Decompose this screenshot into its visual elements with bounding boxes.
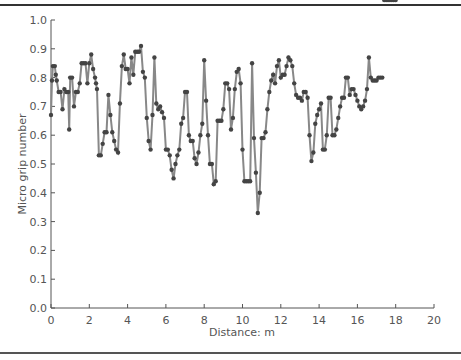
data-point bbox=[106, 93, 110, 97]
data-point bbox=[87, 61, 91, 65]
data-point bbox=[221, 107, 225, 111]
data-point bbox=[99, 153, 103, 157]
data-point bbox=[93, 75, 97, 79]
data-point bbox=[231, 116, 235, 120]
data-point bbox=[169, 168, 173, 172]
data-point bbox=[91, 67, 95, 71]
data-point bbox=[139, 44, 143, 48]
data-point bbox=[292, 81, 296, 85]
data-point bbox=[154, 101, 158, 105]
data-point bbox=[150, 113, 154, 117]
data-point bbox=[284, 64, 288, 68]
data-point bbox=[66, 90, 70, 94]
data-point bbox=[267, 90, 271, 94]
data-point bbox=[313, 121, 317, 125]
data-point bbox=[273, 81, 277, 85]
y-tick-label: 0.9 bbox=[30, 43, 48, 56]
data-point bbox=[336, 116, 340, 120]
data-point bbox=[288, 58, 292, 62]
data-point bbox=[353, 93, 357, 97]
data-point bbox=[229, 127, 233, 131]
data-point bbox=[196, 150, 200, 154]
x-tick-label: 16 bbox=[350, 314, 364, 327]
data-point bbox=[227, 87, 231, 91]
data-point bbox=[181, 116, 185, 120]
y-axis-label: Micro grip number bbox=[16, 113, 29, 215]
data-point bbox=[275, 64, 279, 68]
x-tick-label: 8 bbox=[201, 314, 208, 327]
data-point bbox=[137, 49, 141, 53]
data-point bbox=[263, 130, 267, 134]
data-point bbox=[185, 90, 189, 94]
data-point bbox=[116, 150, 120, 154]
y-tick-label: 0.3 bbox=[30, 216, 48, 229]
data-point bbox=[338, 104, 342, 108]
data-point bbox=[171, 176, 175, 180]
data-point bbox=[236, 67, 240, 71]
data-point bbox=[76, 90, 80, 94]
data-point bbox=[200, 121, 204, 125]
data-point bbox=[348, 93, 352, 97]
data-point bbox=[282, 73, 286, 77]
data-point bbox=[317, 107, 321, 111]
y-tick-label: 0.5 bbox=[30, 158, 48, 171]
x-axis: 02468101214161820 bbox=[48, 304, 442, 327]
data-point bbox=[361, 104, 365, 108]
data-point bbox=[141, 70, 145, 74]
data-point bbox=[380, 75, 384, 79]
data-point bbox=[240, 147, 244, 151]
data-point bbox=[233, 87, 237, 91]
data-point bbox=[319, 101, 323, 105]
data-point bbox=[125, 67, 129, 71]
data-point bbox=[160, 110, 164, 114]
data-point bbox=[67, 127, 71, 131]
data-point bbox=[300, 98, 304, 102]
data-point bbox=[101, 142, 105, 146]
y-tick-label: 0.2 bbox=[30, 244, 48, 257]
data-point bbox=[50, 78, 54, 82]
data-point bbox=[315, 113, 319, 117]
data-point bbox=[129, 55, 133, 59]
data-point bbox=[290, 64, 294, 68]
data-point bbox=[311, 150, 315, 154]
data-point bbox=[225, 81, 229, 85]
plot-series bbox=[49, 0, 398, 215]
data-point bbox=[265, 107, 269, 111]
x-axis-label: Distance: m bbox=[209, 326, 275, 339]
data-point bbox=[355, 98, 359, 102]
data-point bbox=[179, 121, 183, 125]
data-point bbox=[60, 107, 64, 111]
data-point bbox=[118, 101, 122, 105]
x-tick-label: 4 bbox=[124, 314, 131, 327]
data-point bbox=[168, 153, 172, 157]
data-point bbox=[83, 61, 87, 65]
data-point bbox=[202, 58, 206, 62]
x-tick-label: 12 bbox=[274, 314, 288, 327]
data-point bbox=[104, 130, 108, 134]
data-point bbox=[252, 136, 256, 140]
data-point bbox=[55, 78, 59, 82]
y-tick-label: 0.4 bbox=[30, 187, 48, 200]
data-point bbox=[108, 113, 112, 117]
data-point bbox=[325, 133, 329, 137]
data-point bbox=[342, 96, 346, 100]
data-point bbox=[173, 162, 177, 166]
data-point bbox=[334, 127, 338, 131]
data-point bbox=[148, 147, 152, 151]
data-point bbox=[54, 73, 58, 77]
data-point bbox=[49, 113, 53, 117]
data-point bbox=[309, 159, 313, 163]
data-point bbox=[146, 139, 150, 143]
y-tick-label: 0.6 bbox=[30, 129, 48, 142]
y-axis: 0.00.10.20.30.40.50.60.70.80.91.0 bbox=[30, 14, 56, 315]
data-point bbox=[219, 119, 223, 123]
y-tick-label: 0.0 bbox=[30, 302, 48, 315]
x-tick-label: 18 bbox=[389, 314, 403, 327]
data-point bbox=[72, 104, 76, 108]
data-point bbox=[332, 133, 336, 137]
data-point bbox=[143, 75, 147, 79]
x-tick-label: 2 bbox=[86, 314, 93, 327]
data-point bbox=[53, 64, 57, 68]
data-point bbox=[70, 75, 74, 79]
data-point bbox=[191, 139, 195, 143]
